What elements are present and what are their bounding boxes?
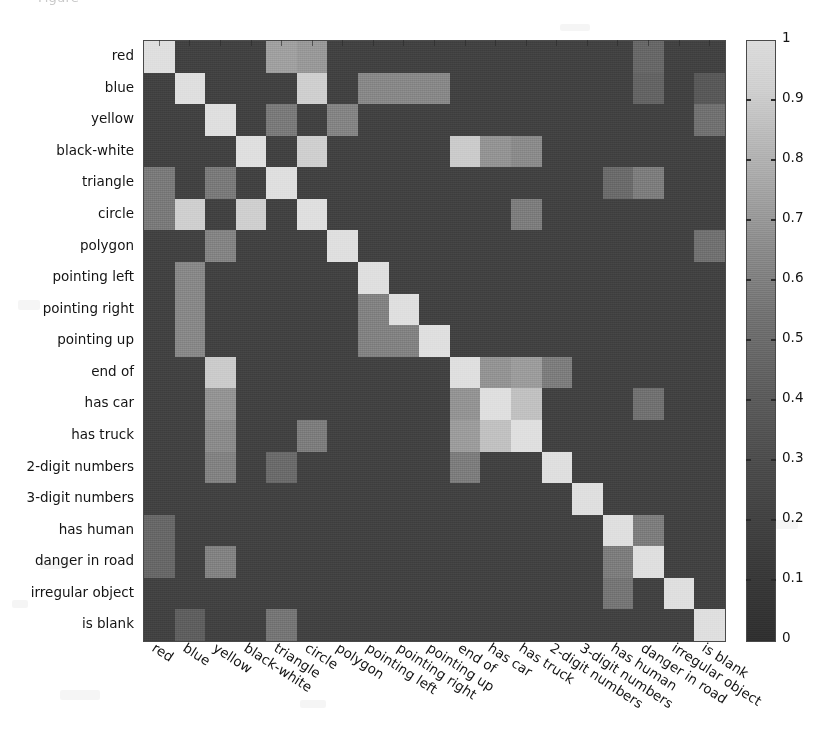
heatmap-cell [603, 452, 634, 484]
heatmap-cell [542, 357, 573, 389]
heatmap-cell [480, 73, 511, 105]
heatmap-cell [480, 357, 511, 389]
heatmap-cell [450, 262, 481, 294]
heatmap-cell [480, 420, 511, 452]
heatmap-cell [236, 325, 267, 357]
heatmap-cell [144, 199, 175, 231]
y-axis-tick-label: pointing right [0, 293, 139, 325]
heatmap-cell [542, 483, 573, 515]
heatmap-cell [175, 515, 206, 547]
heatmap-cell [144, 609, 175, 641]
heatmap-cell [419, 546, 450, 578]
heatmap-cell [542, 452, 573, 484]
heatmap-cell [603, 230, 634, 262]
heatmap-cell [480, 388, 511, 420]
heatmap-cell [542, 578, 573, 610]
colorbar-tick-mark [771, 99, 776, 101]
heatmap-cell [450, 452, 481, 484]
heatmap-cell [664, 357, 695, 389]
y-axis-tick-label: triangle [0, 166, 139, 198]
heatmap-cell [175, 578, 206, 610]
heatmap-cell [511, 104, 542, 136]
heatmap-cell [633, 230, 664, 262]
heatmap-cell [419, 199, 450, 231]
heatmap-cell [205, 199, 236, 231]
heatmap-cell [266, 515, 297, 547]
colorbar-tick-mark [746, 279, 751, 281]
heatmap-figure: redblueyellowblack-whitetrianglecirclepo… [0, 0, 825, 745]
heatmap-cell [419, 230, 450, 262]
colorbar-tick-mark [746, 459, 751, 461]
heatmap-plot-area[interactable] [143, 40, 726, 642]
heatmap-cell [419, 388, 450, 420]
heatmap-cell [480, 483, 511, 515]
colorbar-tick-mark [746, 579, 751, 581]
heatmap-cell [664, 515, 695, 547]
heatmap-cell [633, 420, 664, 452]
y-axis-tick-label: irregular object [0, 577, 139, 609]
heatmap-cell [297, 325, 328, 357]
heatmap-cell [389, 230, 420, 262]
colorbar-tick-mark [771, 459, 776, 461]
heatmap-cell [633, 167, 664, 199]
heatmap-cell [480, 452, 511, 484]
heatmap-cell [175, 104, 206, 136]
heatmap-cell [603, 483, 634, 515]
heatmap-cell [480, 136, 511, 168]
heatmap-cell [144, 136, 175, 168]
heatmap-cell [511, 483, 542, 515]
heatmap-cell [327, 609, 358, 641]
heatmap-cell [389, 294, 420, 326]
colorbar-tick-mark [771, 159, 776, 161]
y-axis-tick-label: black-white [0, 135, 139, 167]
y-axis-tick-label: is blank [0, 608, 139, 640]
heatmap-cell [603, 546, 634, 578]
colorbar-tick-mark [771, 399, 776, 401]
heatmap-cell [266, 388, 297, 420]
heatmap-cell [236, 515, 267, 547]
heatmap-cell [603, 136, 634, 168]
heatmap-cell [205, 41, 236, 73]
heatmap-cell [297, 388, 328, 420]
y-axis-tick-label: danger in road [0, 545, 139, 577]
heatmap-cell [450, 199, 481, 231]
y-axis-tick-label: blue [0, 72, 139, 104]
heatmap-cell [633, 388, 664, 420]
heatmap-cell [542, 325, 573, 357]
heatmap-cell [358, 294, 389, 326]
heatmap-cell [633, 73, 664, 105]
heatmap-cell [175, 609, 206, 641]
y-axis-tick-label: yellow [0, 103, 139, 135]
heatmap-cell [175, 546, 206, 578]
heatmap-cell [236, 294, 267, 326]
heatmap-cell [389, 136, 420, 168]
heatmap-cell [327, 578, 358, 610]
heatmap-cell [694, 199, 725, 231]
heatmap-cell [633, 546, 664, 578]
heatmap-cell [144, 167, 175, 199]
colorbar-tick-label: 0.1 [782, 571, 803, 585]
heatmap-cell [419, 41, 450, 73]
heatmap-cell [236, 357, 267, 389]
heatmap-cell [358, 546, 389, 578]
heatmap-cell [144, 294, 175, 326]
heatmap-cell [419, 420, 450, 452]
heatmap-cell [358, 199, 389, 231]
heatmap-cell [511, 294, 542, 326]
colorbar-tick-label: 0.4 [782, 391, 803, 405]
heatmap-cell [572, 388, 603, 420]
heatmap-cell [542, 546, 573, 578]
heatmap-cell [236, 483, 267, 515]
heatmap-cell [144, 41, 175, 73]
heatmap-cell [389, 578, 420, 610]
heatmap-cell [542, 73, 573, 105]
heatmap-cell [572, 41, 603, 73]
heatmap-cell [664, 104, 695, 136]
heatmap-cell [572, 483, 603, 515]
heatmap-cell [175, 41, 206, 73]
heatmap-cell [572, 515, 603, 547]
heatmap-cell [205, 578, 236, 610]
heatmap-matrix[interactable] [144, 41, 725, 641]
heatmap-cell [236, 578, 267, 610]
heatmap-cell [144, 325, 175, 357]
